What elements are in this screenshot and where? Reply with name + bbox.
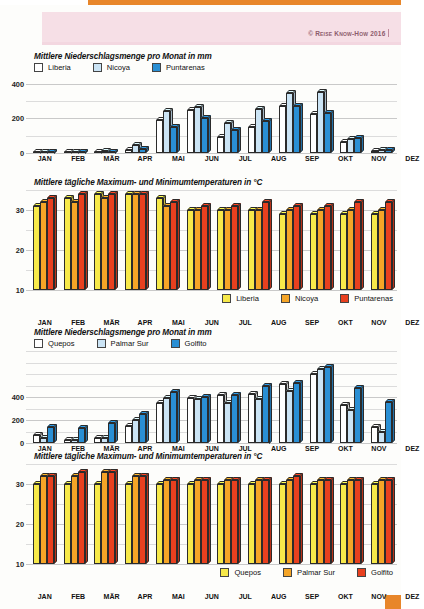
bar-face bbox=[293, 206, 300, 290]
bar-face bbox=[340, 405, 347, 443]
legend-item-liberia[interactable]: Liberia bbox=[222, 294, 259, 303]
legend-item-golfito[interactable]: Golfito bbox=[357, 568, 393, 577]
bar bbox=[293, 383, 300, 443]
bar-face bbox=[71, 202, 78, 290]
bar-group-jan bbox=[28, 75, 59, 153]
bar-face bbox=[132, 420, 139, 443]
x-axis-tick-label: DEZ bbox=[396, 593, 424, 600]
bar-face bbox=[286, 480, 293, 564]
bar-face bbox=[194, 107, 201, 153]
bar-face bbox=[201, 397, 208, 443]
bar bbox=[132, 420, 139, 443]
bar-side-face bbox=[361, 135, 364, 153]
bar bbox=[47, 427, 54, 443]
bar-face bbox=[347, 410, 354, 443]
bar-face bbox=[385, 150, 392, 153]
bar bbox=[33, 484, 40, 564]
bar-group-mai bbox=[151, 75, 182, 153]
legend-item-puntarenas[interactable]: Puntarenas bbox=[340, 294, 393, 303]
x-axis-tick-label: OKT bbox=[329, 445, 362, 452]
bar-side-face bbox=[269, 199, 272, 290]
bar-face bbox=[47, 198, 54, 290]
bar bbox=[340, 214, 347, 290]
bar-face bbox=[224, 480, 231, 564]
bar-face bbox=[324, 480, 331, 564]
bar-face bbox=[125, 194, 132, 290]
legend-item-quepos[interactable]: Quepos bbox=[220, 568, 261, 577]
bar bbox=[255, 109, 262, 153]
legend-item-puntarenas[interactable]: Puntarenas bbox=[152, 63, 205, 72]
y-axis-tick-label: 10 bbox=[0, 560, 24, 569]
legend-item-palmar-sur[interactable]: Palmar Sur bbox=[283, 568, 335, 577]
bar-face bbox=[324, 113, 331, 153]
bar-face bbox=[378, 210, 385, 290]
bar-face bbox=[71, 440, 78, 443]
bar-side-face bbox=[54, 424, 57, 443]
x-axis-tick-label: APR bbox=[128, 593, 161, 600]
y-axis-tick-label: 0 bbox=[0, 149, 24, 158]
plot-area: 0200400 bbox=[0, 351, 401, 443]
bar-face bbox=[217, 484, 224, 564]
bar-group-nov bbox=[336, 464, 367, 564]
legend-item-liberia[interactable]: Liberia bbox=[34, 63, 71, 72]
bar bbox=[170, 202, 177, 290]
bar-face bbox=[132, 145, 139, 153]
bar-group-dez bbox=[366, 190, 397, 290]
bar-face bbox=[324, 206, 331, 290]
bar-face bbox=[78, 194, 85, 290]
bar-group-aug bbox=[243, 190, 274, 290]
legend-item-palmar-sur[interactable]: Palmar Sur bbox=[97, 339, 149, 348]
bar-side-face bbox=[392, 399, 395, 443]
bar bbox=[108, 423, 115, 443]
bar bbox=[385, 150, 392, 153]
bar bbox=[163, 206, 170, 290]
x-axis-tick-label: AUG bbox=[262, 445, 295, 452]
bar-face bbox=[354, 480, 361, 564]
plot-area: 102030 bbox=[0, 464, 401, 564]
bar-face bbox=[310, 114, 317, 153]
legend-item-nicoya[interactable]: Nicoya bbox=[281, 294, 318, 303]
bar-face bbox=[94, 484, 101, 564]
bar-group-jul bbox=[213, 351, 244, 443]
bar-group-sep bbox=[274, 75, 305, 153]
bar bbox=[163, 111, 170, 153]
bar-face bbox=[347, 480, 354, 564]
legend-label: Golfito bbox=[371, 568, 393, 577]
bar-face bbox=[286, 93, 293, 153]
chart-title: Mittlere Niederschlagsmenge pro Monat in… bbox=[34, 328, 401, 337]
bar-face bbox=[156, 403, 163, 443]
bar-face bbox=[64, 484, 71, 564]
bar-face bbox=[354, 202, 361, 290]
legend-swatch-icon bbox=[152, 63, 161, 72]
bar bbox=[71, 202, 78, 290]
bar-face bbox=[40, 438, 47, 443]
bar-side-face bbox=[115, 420, 118, 443]
bar bbox=[262, 386, 269, 444]
bar-group-okt bbox=[305, 190, 336, 290]
bar bbox=[78, 194, 85, 290]
bar-group-apr bbox=[120, 190, 151, 290]
legend-item-quepos[interactable]: Quepos bbox=[34, 339, 75, 348]
bar-face bbox=[255, 210, 262, 290]
bar bbox=[371, 151, 378, 153]
legend-item-golfito[interactable]: Golfito bbox=[171, 339, 207, 348]
bar-face bbox=[33, 435, 40, 443]
legend-item-nicoya[interactable]: Nicoya bbox=[93, 63, 130, 72]
bar-side-face bbox=[331, 364, 334, 443]
copyright-rule-icon bbox=[388, 29, 390, 37]
bar-group-jul bbox=[213, 464, 244, 564]
x-axis-tick-label: JUN bbox=[195, 319, 228, 326]
x-axis-tick-label: MAI bbox=[162, 445, 195, 452]
bar-side-face bbox=[331, 203, 334, 290]
x-axis-tick-label: MAI bbox=[162, 593, 195, 600]
bar bbox=[170, 480, 177, 564]
legend-label: Puntarenas bbox=[166, 63, 205, 72]
bar bbox=[156, 198, 163, 290]
bar bbox=[224, 480, 231, 564]
legend-label: Golfito bbox=[185, 339, 207, 348]
x-axis-tick-label: SEP bbox=[295, 593, 328, 600]
chart-legend: QueposPalmar SurGolfito bbox=[0, 568, 401, 577]
bar-face bbox=[139, 149, 146, 153]
bar bbox=[94, 152, 101, 153]
bar-side-face bbox=[85, 191, 88, 290]
